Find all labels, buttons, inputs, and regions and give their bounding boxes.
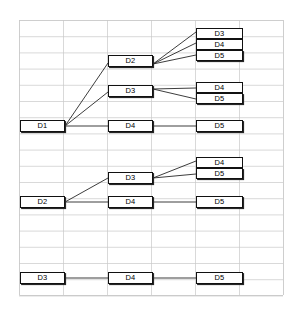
node-label: D4 [215,159,225,167]
edge-n5-n6 [153,88,196,89]
node-box-d4-n18[interactable]: D4 [108,272,153,284]
connector-edges [0,0,300,313]
node-label: D2 [126,57,136,65]
node-label: D5 [215,170,225,178]
node-box-d4-n11[interactable]: D4 [196,157,243,168]
node-label: D4 [126,122,136,130]
node-box-d1-n8[interactable]: D1 [20,120,65,132]
node-box-d5-n3[interactable]: D5 [196,50,243,61]
node-box-d5-n7[interactable]: D5 [196,93,243,104]
node-label: D5 [215,274,225,282]
node-label: D3 [126,87,136,95]
node-box-d2-n14[interactable]: D2 [20,196,65,208]
node-box-d3-n1[interactable]: D3 [196,28,243,39]
edge-n5-n7 [153,89,196,99]
node-box-d3-n13[interactable]: D3 [108,172,153,184]
node-box-d2-n4[interactable]: D2 [108,55,153,67]
node-box-d4-n2[interactable]: D4 [196,39,243,50]
node-label: D3 [38,274,48,282]
node-label: D1 [38,122,48,130]
node-label: D5 [215,95,225,103]
node-label: D3 [126,174,136,182]
node-label: D4 [126,274,136,282]
node-box-d5-n12[interactable]: D5 [196,168,243,179]
node-box-d4-n15[interactable]: D4 [108,196,153,208]
node-box-d5-n16[interactable]: D5 [196,196,243,208]
edge-n8-n5 [65,92,108,126]
node-label: D5 [215,198,225,206]
node-box-d5-n19[interactable]: D5 [196,272,243,284]
node-label: D2 [38,198,48,206]
node-box-d4-n9[interactable]: D4 [108,120,153,132]
edge-n8-n4 [65,63,108,126]
node-label: D4 [215,84,225,92]
node-box-d3-n5[interactable]: D3 [108,85,153,97]
node-label: D5 [215,52,225,60]
edge-n14-n13 [65,178,108,202]
edge-n13-n11 [153,161,196,178]
edge-n4-n2 [153,43,196,64]
node-box-d3-n17[interactable]: D3 [20,272,65,284]
node-box-d4-n6[interactable]: D4 [196,82,243,93]
node-label: D4 [126,198,136,206]
diagram-canvas: D3D4D5D2D3D4D5D1D4D5D4D5D3D2D4D5D3D4D5 [0,0,300,313]
edge-n13-n12 [153,174,196,178]
node-label: D5 [215,122,225,130]
node-label: D4 [215,41,225,49]
node-label: D3 [215,30,225,38]
node-box-d5-n10[interactable]: D5 [196,120,243,132]
